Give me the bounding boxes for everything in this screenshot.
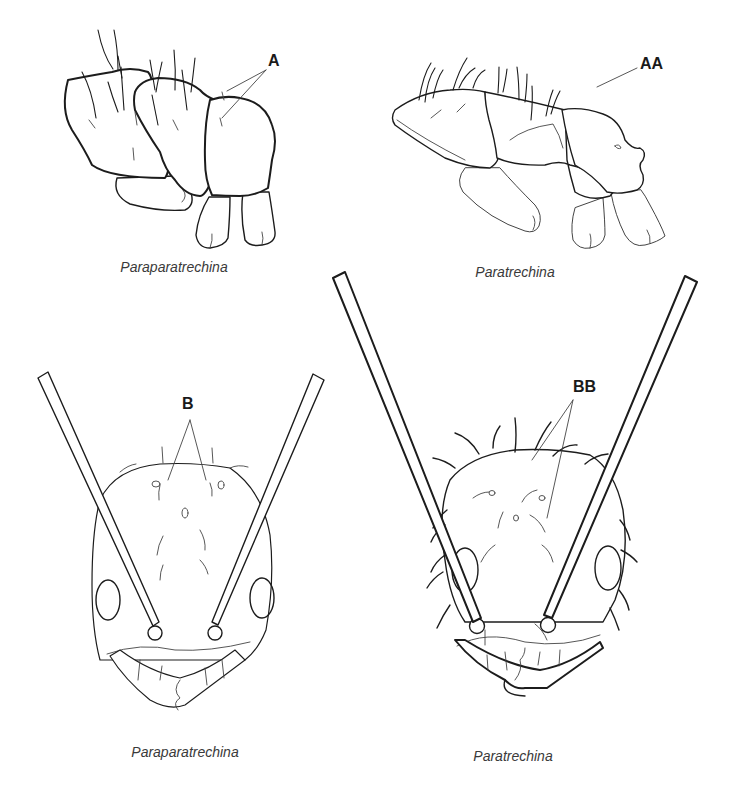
panel-head-paraparatrechina: B Paraparatrechina xyxy=(0,360,375,798)
callout-label-a: A xyxy=(268,52,280,70)
callout-label-b: B xyxy=(182,395,194,413)
caption-paraparatrechina-mesosoma: Paraparatrechina xyxy=(120,259,227,275)
caption-paraparatrechina-head: Paraparatrechina xyxy=(131,744,238,760)
panel-mesosoma-paraparatrechina: A Paraparatrechina xyxy=(0,0,375,290)
head-paratrechina-drawing xyxy=(375,270,751,798)
mesosoma-paratrechina-drawing xyxy=(375,0,751,290)
panel-mesosoma-paratrechina: AA Paratrechina xyxy=(375,0,751,290)
caption-paratrechina-head: Paratrechina xyxy=(473,748,552,764)
panel-head-paratrechina: BB Paratrechina xyxy=(375,270,751,798)
callout-label-bb: BB xyxy=(573,378,596,396)
mesosoma-paraparatrechina-drawing xyxy=(0,0,375,290)
head-paraparatrechina-drawing xyxy=(0,360,375,798)
callout-label-aa: AA xyxy=(640,55,663,73)
